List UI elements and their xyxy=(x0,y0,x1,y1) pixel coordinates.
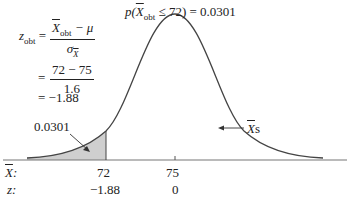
z-tick-0: 0 xyxy=(172,183,179,196)
x-axis-label: X: xyxy=(5,166,17,179)
probability-title: p(Xobt ≤ 72) = 0.0301 xyxy=(125,5,236,22)
x-tick-75: 75 xyxy=(166,166,179,179)
sampling-dist-label: Xs xyxy=(247,122,260,135)
z-result: = −1.88 xyxy=(38,91,79,104)
z-obt-label: zobt = xyxy=(19,29,46,46)
z-tick-neg188: −1.88 xyxy=(90,183,120,196)
dist-arrow-head xyxy=(218,126,224,131)
z-formula-fraction: Xobt − μ σX xyxy=(50,20,95,58)
z-axis-label: z: xyxy=(7,183,16,196)
equals-step2: = xyxy=(38,71,45,84)
x-tick-72: 72 xyxy=(97,166,110,179)
area-label: 0.0301 xyxy=(34,120,70,133)
shaded-tail-area xyxy=(27,131,106,160)
